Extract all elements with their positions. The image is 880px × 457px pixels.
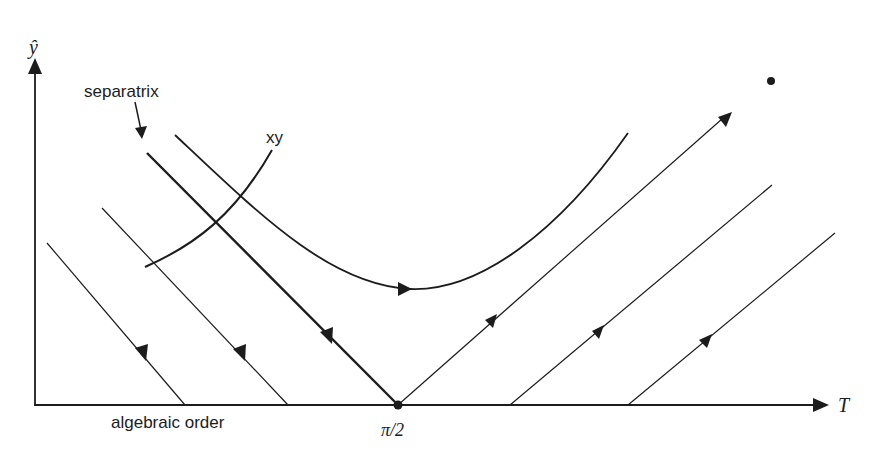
flow-arrow-icon <box>718 112 732 127</box>
trajectory-upper-u-curve <box>175 133 628 296</box>
x-axis-arrow-icon <box>813 398 829 412</box>
flow-arrow-icon <box>592 325 604 339</box>
separatrix-label: separatrix <box>84 82 159 101</box>
separatrix-pointer <box>135 102 141 130</box>
axes <box>28 58 829 412</box>
phase-diagram: ŷ T π/2 algebraic order separatrix xy <box>0 0 880 457</box>
x-tick-label-pi-half: π/2 <box>381 420 404 440</box>
trajectory-left-descending-2 <box>102 208 288 405</box>
trajectory-left-descending-1 <box>47 243 185 405</box>
y-axis-label: ŷ <box>27 36 38 59</box>
fixed-point-pi-half <box>394 401 403 410</box>
trajectory-right-ascending-2 <box>510 185 772 405</box>
x-axis-label: T <box>838 394 851 416</box>
isolated-point <box>767 77 775 85</box>
separatrix-pointer-arrow-icon <box>135 126 147 139</box>
flow-arrow-icon <box>135 344 148 361</box>
trajectory-separatrix <box>147 153 398 405</box>
xy-label: xy <box>266 128 284 147</box>
y-axis-arrow-icon <box>28 58 42 74</box>
trajectory-right-ascending-1 <box>398 112 732 405</box>
flow-arrow-icon <box>699 334 712 348</box>
algebraic-order-label: algebraic order <box>111 413 225 432</box>
trajectory-right-ascending-3 <box>628 233 835 405</box>
flow-arrow-icon <box>398 282 412 296</box>
flow-arrow-icon <box>233 344 246 361</box>
